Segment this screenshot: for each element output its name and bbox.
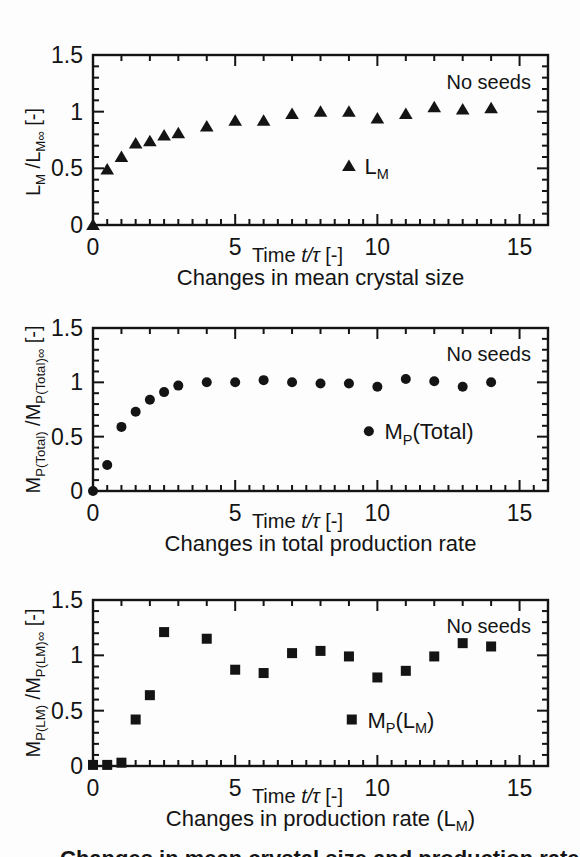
data-point [342,105,356,117]
y-tick-label: 1 [70,99,83,125]
x-tick-label: 15 [507,234,533,260]
data-point [287,648,297,658]
data-point [228,114,242,126]
data-point [259,668,269,678]
y-tick-label: 0 [70,212,83,238]
data-point [88,760,98,770]
legend-label: MP(LM) [367,708,434,736]
y-tick-label: 1.5 [51,42,83,68]
data-point [159,387,169,397]
data-point [372,382,382,392]
data-point [456,103,470,115]
chart-caption: Changes in total production rate [165,531,477,556]
data-point [287,377,297,387]
x-tick-label: 10 [365,234,391,260]
y-tick-label: 1 [70,369,83,395]
no-seeds-annotation: No seeds [446,71,531,93]
data-point [259,375,269,385]
legend-marker-square [347,715,357,725]
data-point [285,107,299,119]
x-tick-label: 10 [365,500,391,526]
data-point [131,407,141,417]
data-point [102,460,112,470]
data-point [344,378,354,388]
data-point [143,135,157,147]
y-tick-label: 0.5 [51,155,83,181]
x-axis-label: Time t/τ [-] [252,510,343,532]
data-point [458,382,468,392]
x-tick-label: 0 [87,775,100,801]
data-point [202,377,212,387]
data-point [458,638,468,648]
data-point [314,105,328,117]
data-point [116,422,126,432]
cutoff-figure-caption: Changes in mean crystal size and product… [60,846,580,857]
data-point [88,486,98,496]
x-axis-label: Time t/τ [-] [252,244,343,266]
data-point [202,634,212,644]
y-tick-label: 0 [70,753,83,779]
chart-caption: Changes in mean crystal size [177,265,464,290]
data-point [401,374,411,384]
data-point [159,627,169,637]
y-tick-label: 1.5 [51,587,83,613]
data-point [486,641,496,651]
data-point [427,101,441,113]
y-tick-label: 1 [70,642,83,668]
legend-marker-circle [364,426,374,436]
y-tick-label: 0.5 [51,424,83,450]
chart-production-rate-lm: 05101500.511.5No seedsMP(LM)Time t/τ [-]… [22,587,548,834]
data-point [102,760,112,770]
data-point [372,672,382,682]
figure-page: 05101500.511.5No seedsLMTime t/τ [-]LM /… [0,0,580,857]
x-tick-label: 15 [507,775,533,801]
x-tick-label: 0 [87,500,100,526]
data-point [257,114,271,126]
chart-caption: Changes in production rate (LM) [166,806,475,834]
x-tick-label: 10 [365,775,391,801]
x-tick-label: 5 [229,775,242,801]
data-point [200,120,214,131]
x-tick-label: 0 [87,234,100,260]
y-tick-label: 1.5 [51,315,83,341]
x-tick-label: 5 [229,500,242,526]
data-point [173,381,183,391]
data-point [429,651,439,661]
x-tick-label: 5 [229,234,242,260]
x-axis-label: Time t/τ [-] [252,785,343,807]
data-point [145,690,155,700]
chart-total-production-rate: 05101500.511.5No seedsMP(Total)Time t/τ … [22,315,548,556]
y-axis-label: LM /LM∞ [-] [22,108,48,196]
x-tick-label: 15 [507,500,533,526]
data-point [115,151,129,163]
data-point [371,112,385,124]
y-tick-label: 0.5 [51,698,83,724]
y-axis-label: MP(LM) /MP(LM)∞ [-] [22,608,48,757]
data-point [316,646,326,656]
data-point [399,107,413,119]
data-point [230,665,240,675]
legend-label: MP(Total) [384,419,473,447]
data-point [401,666,411,676]
no-seeds-annotation: No seeds [446,615,531,637]
data-point [230,377,240,387]
data-point [172,127,186,139]
data-point [316,378,326,388]
data-point [429,376,439,386]
y-axis-label: MP(Total) /MP(Total)∞ [-] [22,325,48,493]
legend-marker-triangle [342,160,356,172]
no-seeds-annotation: No seeds [446,343,531,365]
legend-label: LM [365,154,389,182]
data-point [116,758,126,768]
data-point [484,102,498,114]
data-point [145,395,155,405]
data-point [129,137,143,149]
figure-canvas: 05101500.511.5No seedsLMTime t/τ [-]LM /… [0,0,580,857]
data-point [344,651,354,661]
data-point [157,129,171,141]
chart-mean-crystal-size: 05101500.511.5No seedsLMTime t/τ [-]LM /… [22,42,548,290]
y-tick-label: 0 [70,478,83,504]
data-point [131,715,141,725]
data-point [486,377,496,387]
